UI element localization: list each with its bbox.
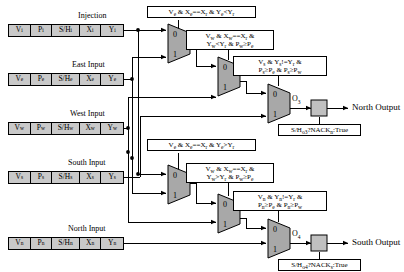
mux-north-a-port1: 1 [173, 50, 177, 59]
signal-o3: O3 [292, 94, 301, 103]
reg-cell-valid: Vw [9, 123, 31, 134]
condition-north-3-line2: Ps≥Pe & Ps≥Pw [236, 66, 324, 75]
reg-cell-priority: Ps [31, 172, 53, 183]
input-title-west: West Input [70, 109, 105, 118]
condition-south-3: Vn & Yn!=Yr & Pn≥Pe & Pn≥Pw [233, 191, 327, 211]
latch-south [311, 235, 327, 251]
reg-cell-valid: Ve [9, 74, 31, 85]
condition-north-2-line1: Vw & Xw==Xr & [189, 32, 271, 41]
condition-south-3-line2: Pn≥Pe & Pn≥Pw [236, 201, 324, 210]
reg-cell-stop-hold: S/Hn [52, 238, 80, 249]
condition-north-3: Vs & Ys!=Yr & Ps≥Pe & Ps≥Pw [233, 56, 327, 76]
condition-south-1: Ve & Xe==Xr & Ye>Yr [147, 139, 256, 151]
input-title-south: South Input [68, 158, 106, 167]
reg-cell-stop-hold: S/He [52, 74, 80, 85]
condition-north-2-line2: Yw<Yr & Pw≥Pe [189, 40, 271, 49]
register-south[interactable]: Vs Ps S/Hs Xs Ys [8, 171, 124, 184]
output-label-south: South Output [352, 237, 400, 247]
latch-north [311, 100, 327, 116]
mux-south-f [268, 219, 290, 258]
condition-north-1: Ve & Xe==Xr & Ye<Yr [147, 6, 256, 18]
mux-north-b-port1: 1 [223, 83, 227, 92]
mux-north-b-port0: 0 [223, 63, 227, 72]
mux-north-c [268, 84, 290, 123]
reg-cell-priority: Pn [31, 238, 53, 249]
mux-north-c-port1: 1 [273, 110, 277, 119]
mux-north-c-port0: 0 [273, 90, 277, 99]
register-west[interactable]: Vw Pw S/Hw Xw Yw [8, 122, 124, 135]
condition-south-2-line1: Vw & Xw==Xr & [189, 165, 271, 174]
reg-cell-y: Ys [101, 172, 123, 183]
register-injection[interactable]: Vi Pi S/Hi Xi Yi [8, 24, 124, 37]
latch-condition-south: S/Ho4?NACKs:True [278, 259, 361, 271]
mux-south-d-port1: 1 [173, 191, 177, 200]
input-title-east: East Input [72, 60, 105, 69]
mux-south-f-port1: 1 [273, 245, 277, 254]
reg-cell-x: Xi [80, 25, 102, 36]
reg-cell-stop-hold: S/Hs [52, 172, 80, 183]
reg-cell-x: Xs [80, 172, 102, 183]
condition-south-2-line2: Yw>Yr & Pw≥Pe [189, 173, 271, 182]
latch-condition-north: S/Ho3?NACKn:True [278, 124, 361, 136]
reg-cell-stop-hold: S/Hw [52, 123, 80, 134]
reg-cell-priority: Pw [31, 123, 53, 134]
register-north[interactable]: Vn Pn S/Hn Xn Yn [8, 237, 124, 250]
input-title-injection: Injection [78, 11, 106, 20]
mux-south-d-port0: 0 [173, 171, 177, 180]
reg-cell-y: Ye [101, 74, 123, 85]
mux-south-f-port0: 0 [273, 225, 277, 234]
reg-cell-priority: Pe [31, 74, 53, 85]
reg-cell-x: Xw [80, 123, 102, 134]
reg-cell-y: Yw [101, 123, 123, 134]
register-east[interactable]: Ve Pe S/He Xe Ye [8, 73, 124, 86]
reg-cell-priority: Pi [31, 25, 53, 36]
condition-north-3-line1: Vs & Ys!=Yr & [236, 58, 324, 67]
mux-south-e-port0: 0 [223, 200, 227, 209]
reg-cell-stop-hold: S/Hi [52, 25, 80, 36]
condition-north-2: Vw & Xw==Xr & Yw<Yr & Pw≥Pe [186, 30, 274, 50]
router-arbitration-diagram: Injection Vi Pi S/Hi Xi Yi East Input Ve… [0, 0, 404, 272]
reg-cell-x: Xe [80, 74, 102, 85]
reg-cell-valid: Vs [9, 172, 31, 183]
reg-cell-valid: Vi [9, 25, 31, 36]
mux-south-e-port1: 1 [223, 220, 227, 229]
reg-cell-x: Xn [80, 238, 102, 249]
reg-cell-valid: Vn [9, 238, 31, 249]
mux-north-a-port0: 0 [173, 30, 177, 39]
reg-cell-y: Yn [101, 238, 123, 249]
condition-south-2: Vw & Xw==Xr & Yw>Yr & Pw≥Pe [186, 163, 274, 183]
condition-south-3-line1: Vn & Yn!=Yr & [236, 193, 324, 202]
reg-cell-y: Yi [101, 25, 123, 36]
output-label-north: North Output [352, 102, 400, 112]
signal-o4: O4 [292, 229, 301, 238]
input-title-north: North Input [68, 224, 106, 233]
